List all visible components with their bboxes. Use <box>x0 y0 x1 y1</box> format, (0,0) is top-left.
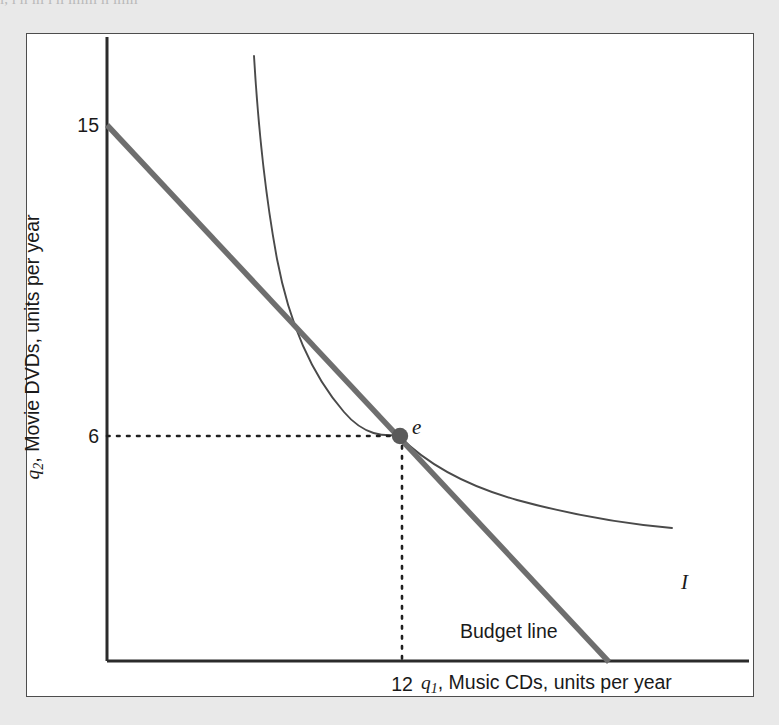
y-tick-label-6: 6 <box>47 425 99 448</box>
optimal-bundle-marker <box>392 428 408 444</box>
plot-area: q2, Movie DVDs, units per year q1, Music… <box>27 34 755 698</box>
chart-canvas <box>27 34 755 698</box>
x-axis-title: q1, Music CDs, units per year <box>421 671 672 697</box>
y-axis-title: q2, Movie DVDs, units per year <box>21 112 47 582</box>
y-axis-title-symbol: q <box>22 470 43 480</box>
scan-top-text-artifact: ı, ı ıı ııı ı ıı ııııııı ıı ıııııı <box>0 0 779 10</box>
figure-frame: q2, Movie DVDs, units per year q1, Music… <box>26 33 754 697</box>
indifference-curve-label: I <box>681 570 688 595</box>
y-axis-title-subscript: 2 <box>30 463 46 470</box>
x-axis-title-subscript: 1 <box>431 680 438 696</box>
y-axis-title-text: , Movie DVDs, units per year <box>21 214 43 462</box>
x-tick-label-12: 12 <box>376 673 428 696</box>
axes-group <box>107 37 749 661</box>
x-axis-title-text: , Music CDs, units per year <box>438 671 672 693</box>
indifference-curve-I <box>254 56 672 528</box>
budget-line-label: Budget line <box>460 620 558 643</box>
y-tick-label-15: 15 <box>47 114 99 137</box>
optimal-bundle-label: e <box>412 415 421 440</box>
budget-line <box>107 125 609 662</box>
scan-artifact-line: ı, ı ıı ııı ı ıı ııııııı ıı ıııııı <box>0 0 779 8</box>
